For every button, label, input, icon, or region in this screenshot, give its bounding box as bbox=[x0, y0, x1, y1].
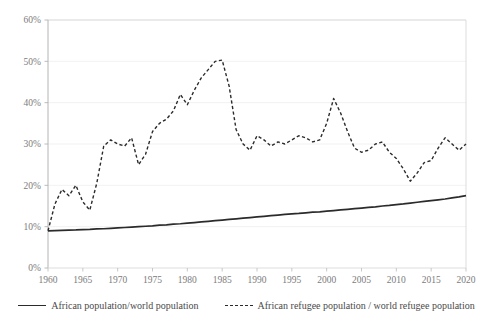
x-axis-tick-label: 2000 bbox=[317, 275, 336, 285]
chart-container: 0%10%20%30%40%50%60%19601965197019751980… bbox=[0, 0, 493, 330]
x-axis-tick-label: 2015 bbox=[422, 275, 441, 285]
legend-swatch-solid-line bbox=[18, 305, 46, 306]
y-axis-tick-label: 0% bbox=[28, 263, 41, 273]
legend-label-african-refugee-population: African refugee population / world refug… bbox=[258, 300, 475, 311]
series-line-2 bbox=[48, 60, 466, 231]
x-axis-tick-label: 1960 bbox=[39, 275, 58, 285]
x-axis-tick-label: 2010 bbox=[387, 275, 406, 285]
x-axis-tick-label: 1975 bbox=[143, 275, 162, 285]
y-axis-tick-label: 40% bbox=[24, 98, 42, 108]
x-axis-tick-label: 1970 bbox=[108, 275, 127, 285]
legend-label-african-population: African population/world population bbox=[51, 300, 198, 311]
y-axis-tick-label: 60% bbox=[24, 15, 42, 25]
y-axis-tick-label: 30% bbox=[24, 139, 42, 149]
x-axis-tick-label: 1980 bbox=[178, 275, 197, 285]
x-axis-tick-label: 1995 bbox=[282, 275, 301, 285]
y-axis-tick-label: 20% bbox=[24, 181, 42, 191]
legend-entry-african-population: African population/world population bbox=[18, 300, 198, 311]
x-axis-tick-label: 1990 bbox=[248, 275, 267, 285]
series-line-1 bbox=[48, 196, 466, 231]
x-axis-tick-label: 1965 bbox=[73, 275, 92, 285]
x-axis-tick-label: 1985 bbox=[213, 275, 232, 285]
line-chart: 0%10%20%30%40%50%60%19601965197019751980… bbox=[0, 0, 493, 330]
y-axis-tick-label: 50% bbox=[24, 57, 42, 67]
x-axis-tick-label: 2020 bbox=[457, 275, 476, 285]
legend-entry-african-refugee-population: African refugee population / world refug… bbox=[225, 300, 475, 311]
y-axis-tick-label: 10% bbox=[24, 222, 42, 232]
chart-legend: African population/world population Afri… bbox=[0, 300, 493, 311]
x-axis-tick-label: 2005 bbox=[352, 275, 371, 285]
legend-swatch-dashed-line bbox=[225, 305, 253, 306]
